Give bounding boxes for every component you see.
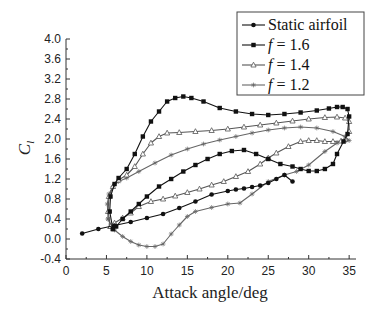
marker-square	[331, 162, 335, 166]
marker-square	[116, 176, 120, 180]
marker-square	[250, 112, 254, 116]
marker-square	[218, 152, 222, 156]
marker-square	[157, 109, 161, 113]
legend-label: f = 1.2	[268, 76, 309, 94]
marker-triangle	[245, 169, 250, 174]
y-tick-label: -0.4	[40, 252, 61, 266]
x-tick-label: 10	[140, 264, 154, 278]
series-line	[107, 127, 349, 247]
marker-square	[141, 134, 145, 138]
marker-star	[185, 214, 190, 219]
marker-square	[173, 96, 177, 100]
marker-square	[234, 109, 238, 113]
marker-star	[251, 83, 256, 88]
marker-star	[193, 209, 198, 214]
marker-square	[290, 164, 294, 168]
x-tick-label: 5	[103, 264, 110, 278]
marker-square	[230, 149, 234, 153]
marker-star	[298, 125, 303, 130]
marker-circle	[274, 177, 279, 182]
x-tick-label: 30	[302, 264, 316, 278]
y-tick-label: 2.4	[44, 112, 61, 126]
marker-circle	[80, 231, 85, 236]
series-f-1-6	[107, 94, 351, 231]
marker-circle	[209, 192, 214, 197]
series-static-airfoil	[80, 173, 295, 236]
y-tick-label: 2.0	[44, 132, 61, 146]
marker-star	[120, 234, 125, 239]
y-axis-title-sub: l	[24, 141, 36, 144]
plot-series	[80, 94, 352, 249]
marker-star	[217, 138, 222, 143]
y-axis-title-main: C	[15, 143, 34, 155]
svg-text:Cl: Cl	[15, 141, 36, 155]
legend-label: f = 1.6	[268, 36, 309, 54]
y-tick-label: 4.0	[44, 32, 61, 46]
marker-square	[137, 202, 141, 206]
marker-star	[201, 142, 206, 147]
x-tick-label: 20	[221, 264, 235, 278]
marker-square	[282, 112, 286, 116]
marker-star	[145, 244, 150, 249]
marker-triangle	[258, 161, 263, 166]
marker-circle	[177, 206, 182, 211]
marker-star	[153, 244, 158, 249]
marker-square	[335, 152, 339, 156]
marker-square	[149, 119, 153, 123]
marker-star	[282, 126, 287, 131]
marker-circle	[266, 181, 271, 186]
marker-star	[128, 239, 133, 244]
marker-circle	[251, 23, 256, 28]
marker-square	[107, 209, 111, 213]
marker-circle	[112, 223, 117, 228]
marker-star	[177, 223, 182, 228]
marker-square	[251, 43, 255, 47]
marker-square	[340, 105, 344, 109]
marker-square	[323, 167, 327, 171]
y-tick-label: 3.2	[44, 72, 61, 86]
marker-square	[124, 167, 128, 171]
marker-circle	[282, 173, 287, 178]
marker-square	[112, 182, 116, 186]
legend-label: f = 1.4	[268, 56, 309, 74]
marker-square	[347, 114, 351, 118]
x-axis-title: Attack angle/deg	[152, 283, 268, 302]
marker-star	[306, 163, 311, 168]
marker-star	[331, 129, 336, 134]
marker-circle	[145, 216, 150, 221]
marker-square	[307, 169, 311, 173]
y-tick-label: 1.2	[44, 172, 61, 186]
marker-square	[341, 139, 345, 143]
x-tick-label: 35	[342, 264, 356, 278]
chart: 05101520253035 -0.40.00.40.81.21.62.02.4…	[0, 0, 375, 313]
y-tick-label: 1.6	[44, 152, 61, 166]
marker-square	[315, 108, 319, 112]
legend-label: Static airfoil	[268, 16, 348, 33]
marker-star	[136, 169, 141, 174]
marker-square	[254, 152, 258, 156]
marker-square	[298, 167, 302, 171]
marker-square	[133, 152, 137, 156]
marker-square	[345, 107, 349, 111]
marker-circle	[234, 187, 239, 192]
legend: Static airfoilf = 1.6f = 1.4f = 1.2	[237, 12, 364, 95]
marker-square	[327, 106, 331, 110]
marker-square	[315, 169, 319, 173]
x-tick-label: 0	[63, 264, 70, 278]
y-tick-label: 3.6	[44, 52, 61, 66]
y-axis-title: Cl	[15, 141, 36, 155]
marker-star	[136, 243, 141, 248]
marker-star	[250, 192, 255, 197]
marker-star	[266, 128, 271, 133]
series-f-1-2	[105, 125, 352, 249]
marker-star	[161, 242, 166, 247]
marker-square	[145, 194, 149, 198]
series-line	[110, 97, 349, 230]
marker-star	[238, 201, 243, 206]
x-ticks: 05101520253035	[63, 255, 356, 278]
marker-circle	[226, 189, 231, 194]
marker-circle	[161, 212, 166, 217]
marker-square	[242, 148, 246, 152]
marker-square	[335, 105, 339, 109]
marker-square	[169, 177, 173, 181]
